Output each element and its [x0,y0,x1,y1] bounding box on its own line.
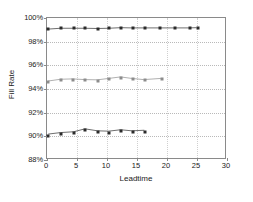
data-point-marker [173,27,176,30]
data-point-marker [59,27,62,30]
data-point-marker [47,134,50,137]
data-point-marker [108,27,111,30]
y-axis-tick-label: 90% [28,131,43,140]
y-axis-tick-labels: 88%90%92%94%96%98%100% [0,17,43,159]
x-axis-title: Leadtime [46,174,226,183]
data-point-marker [47,28,50,31]
x-axis-tick-label: 0 [44,161,48,170]
data-point-marker [97,79,100,82]
data-point-marker [73,27,76,30]
data-point-marker [97,131,100,134]
data-point-marker [108,131,111,134]
y-axis-tick-label: 98% [28,36,43,45]
y-axis-tick-label: 92% [28,107,43,116]
data-point-marker [59,133,62,136]
data-point-marker [131,27,134,30]
data-point-marker [131,78,134,81]
data-point-marker [84,27,87,30]
y-axis-tick [44,136,47,137]
data-point-marker [143,27,146,30]
y-axis-tick [44,42,47,43]
x-axis-tick-label: 5 [74,161,78,170]
data-point-marker [97,27,100,30]
y-axis-tick [44,113,47,114]
data-point-marker [120,76,123,79]
x-axis-tick-label: 15 [132,161,140,170]
fill-rate-chart: Fill Rate 88%90%92%94%96%98%100% 0510152… [0,0,253,202]
series-lines [47,18,225,158]
y-axis-tick [44,18,47,19]
y-axis-tick [44,65,47,66]
data-point-marker [73,132,76,135]
y-axis-tick [44,89,47,90]
data-point-marker [143,79,146,82]
data-point-marker [131,131,134,134]
x-axis-tick-label: 30 [222,161,230,170]
x-axis-tick-labels: 051015202530 [46,161,226,175]
y-axis-tick-label: 100% [24,13,43,22]
data-point-marker [144,130,147,133]
x-axis-tick-label: 20 [162,161,170,170]
data-point-marker [71,78,74,81]
data-point-marker [47,80,50,83]
x-axis-tick-label: 25 [192,161,200,170]
data-point-marker [120,130,123,133]
plot-area [46,17,226,159]
data-point-marker [159,27,162,30]
x-axis-tick-label: 10 [102,161,110,170]
y-axis-tick-label: 94% [28,84,43,93]
data-point-marker [59,79,62,82]
data-point-marker [84,129,87,132]
data-point-marker [108,78,111,81]
data-point-marker [120,26,123,29]
data-point-marker [197,26,200,29]
y-axis-tick-label: 96% [28,60,43,69]
y-axis-tick-label: 88% [28,155,43,164]
data-point-marker [84,79,87,82]
data-point-marker [161,78,164,81]
data-point-marker [189,27,192,30]
